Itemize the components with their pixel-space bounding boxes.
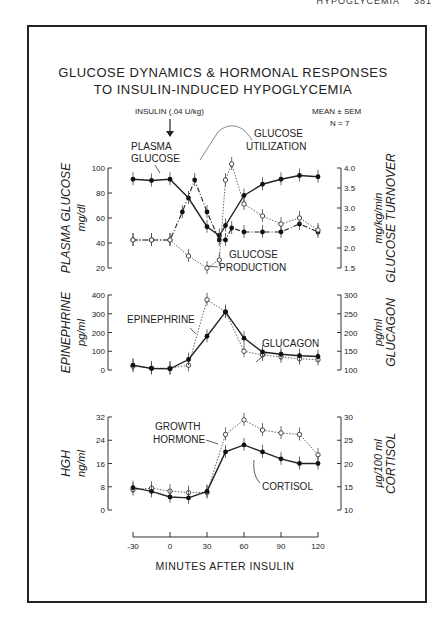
data-point (297, 461, 302, 466)
y-tick-label: 60 (96, 214, 105, 223)
y-right-tick-label: 100 (344, 366, 358, 375)
data-point (260, 350, 265, 355)
y-right-tick-label: 250 (344, 310, 358, 319)
y-axis-title: PLASMA GLUCOSE (59, 162, 73, 273)
annotation-glucagon: GLUCAGON (262, 338, 319, 349)
data-point (205, 489, 210, 494)
data-point (168, 177, 173, 182)
y-right-tick-label: 30 (344, 413, 353, 422)
data-point (229, 226, 234, 231)
y-tick-label: 0 (101, 506, 106, 515)
x-axis-title: MINUTES AFTER INSULIN (156, 560, 295, 572)
y-axis-unit: pg/ml (75, 318, 87, 346)
data-point (186, 254, 190, 258)
data-point (186, 357, 191, 362)
data-point (316, 453, 320, 457)
data-point (260, 214, 264, 218)
data-point (242, 202, 246, 206)
y-right-tick-label: 15 (344, 483, 353, 492)
series-glucose-utilization (131, 157, 320, 274)
data-point (242, 230, 247, 235)
data-point (131, 238, 135, 242)
data-point (223, 449, 228, 454)
data-point (297, 353, 302, 358)
data-point (205, 334, 210, 339)
y-right-tick-label: 25 (344, 436, 353, 445)
y-right-tick-label: 2.5 (344, 224, 356, 233)
annotation-glucose-util-2: UTILIZATION (246, 141, 306, 152)
data-point (223, 432, 227, 436)
series-cortisol (131, 438, 321, 504)
y-tick-label: 100 (92, 164, 106, 173)
y-right-tick-label: 2.0 (344, 244, 356, 253)
y-axis-title: EPINEPHRINE (59, 291, 73, 373)
y-axis-unit: ng/ml (75, 449, 87, 476)
data-point (149, 366, 154, 371)
data-point (168, 366, 173, 371)
data-point (205, 297, 209, 301)
annotation-plasma: PLASMA (131, 141, 172, 152)
data-point (242, 443, 247, 448)
data-point (131, 363, 136, 368)
data-point (229, 162, 233, 166)
data-point (279, 230, 284, 235)
annotation-glucose: GLUCOSE (131, 153, 180, 164)
chart-canvas: 204060801001.52.02.53.03.54.0PLASMA GLUC… (0, 0, 446, 620)
data-point (279, 431, 283, 435)
annotation-glucose-prod-1: GLUCOSE (229, 249, 278, 260)
y-right-tick-label: 200 (344, 329, 358, 338)
data-point (205, 224, 210, 229)
data-point (223, 178, 227, 182)
data-point (316, 174, 321, 179)
annotation-glucose-prod-2: PRODUCTION (219, 262, 286, 273)
x-tick-label: 0 (168, 542, 173, 551)
data-point (149, 238, 153, 242)
data-point (149, 489, 154, 494)
data-point (260, 449, 265, 454)
y-tick-label: 200 (92, 329, 106, 338)
data-point (297, 216, 301, 220)
y-tick-label: 32 (96, 413, 105, 422)
data-point (186, 496, 191, 501)
y-tick-label: 40 (96, 239, 105, 248)
n-label: N = 7 (330, 119, 350, 128)
y-tick-label: 24 (96, 436, 105, 445)
panel-3: 081624321015202530HGHng/mlµg/100 mlCORTI… (59, 413, 398, 515)
y-tick-label: 16 (96, 460, 105, 469)
stats-label: MEAN ± SEM (312, 107, 362, 116)
annotation-hormone: HORMONE (153, 434, 206, 445)
data-point (168, 238, 172, 242)
annotation-epinephrine: EPINEPHRINE (127, 314, 195, 325)
y-right-axis-title: GLUCOSE TURNOVER (384, 153, 398, 283)
annotation-cortisol: CORTISOL (262, 481, 313, 492)
data-point (242, 336, 247, 341)
data-point (168, 495, 173, 500)
y-right-tick-label: 300 (344, 291, 358, 300)
data-point (279, 456, 284, 461)
data-point (279, 222, 283, 226)
data-point (149, 178, 154, 183)
panel-2: 0100200300400100150200250300EPINEPHRINEp… (59, 291, 398, 375)
y-tick-label: 0 (101, 366, 106, 375)
y-right-axis-unit: mg/kg/min (372, 193, 384, 244)
y-right-tick-label: 1.5 (344, 264, 356, 273)
data-point (297, 173, 302, 178)
y-axis-title: HGH (59, 450, 73, 477)
y-right-tick-label: 3.5 (344, 184, 356, 193)
y-axis-unit: mg/dl (75, 204, 87, 231)
y-right-tick-label: 10 (344, 506, 353, 515)
y-right-axis-unit: µg/100 ml (372, 439, 384, 488)
annotation-growth: GROWTH (155, 421, 201, 432)
data-point (242, 418, 246, 422)
insulin-label: INSULIN (.04 U/kg) (135, 107, 204, 116)
data-point (223, 309, 228, 314)
y-tick-label: 8 (101, 483, 106, 492)
y-tick-label: 400 (92, 291, 106, 300)
y-right-tick-label: 20 (344, 460, 353, 469)
y-tick-label: 80 (96, 189, 105, 198)
x-tick-label: -30 (127, 542, 139, 551)
data-point (260, 182, 265, 187)
x-tick-label: 120 (311, 542, 325, 551)
y-tick-label: 300 (92, 310, 106, 319)
data-point (279, 352, 284, 357)
